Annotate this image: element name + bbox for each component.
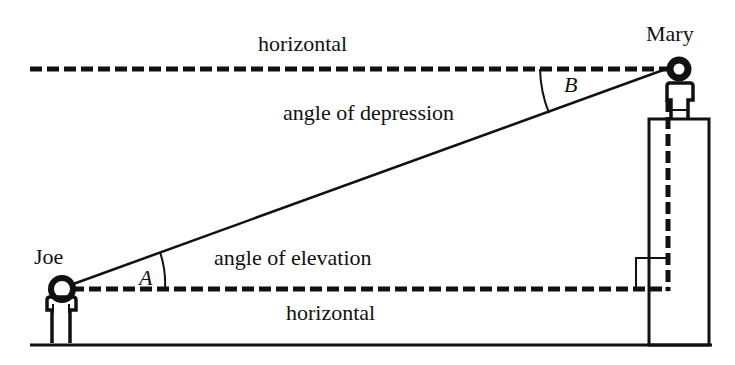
joe-label: Joe: [34, 244, 63, 269]
angle-b-arc: [540, 69, 549, 113]
angle-depression-label: angle of depression: [283, 100, 454, 125]
elevation-depression-diagram: horizontal angle of depression angle of …: [0, 0, 735, 365]
right-angle-marker: [636, 258, 668, 289]
angle-a-arc: [160, 252, 165, 289]
bottom-horizontal-label: horizontal: [286, 300, 375, 325]
angle-a-label: A: [137, 265, 153, 290]
joe-figure: [47, 278, 76, 343]
mary-figure: [667, 60, 693, 119]
top-horizontal-label: horizontal: [258, 31, 347, 56]
angle-elevation-label: angle of elevation: [214, 245, 372, 270]
joe-body: [47, 297, 76, 343]
mary-body: [667, 83, 693, 119]
building: [649, 119, 709, 345]
mary-label: Mary: [646, 21, 694, 46]
mary-head: [670, 60, 688, 78]
angle-b-label: B: [564, 72, 577, 97]
